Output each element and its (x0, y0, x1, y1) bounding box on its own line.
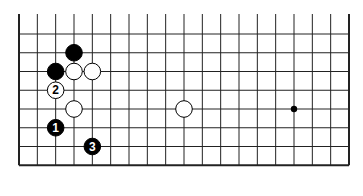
star-point (291, 106, 297, 112)
move-number: 1 (52, 121, 59, 135)
black-stone (66, 44, 83, 61)
go-board: 213 (0, 0, 363, 196)
move-number: 3 (89, 140, 96, 154)
black-stone (47, 63, 64, 80)
move-number: 2 (52, 83, 59, 97)
white-stone (66, 101, 83, 118)
white-stone (66, 63, 83, 80)
white-stone (176, 101, 193, 118)
white-stone (84, 63, 101, 80)
